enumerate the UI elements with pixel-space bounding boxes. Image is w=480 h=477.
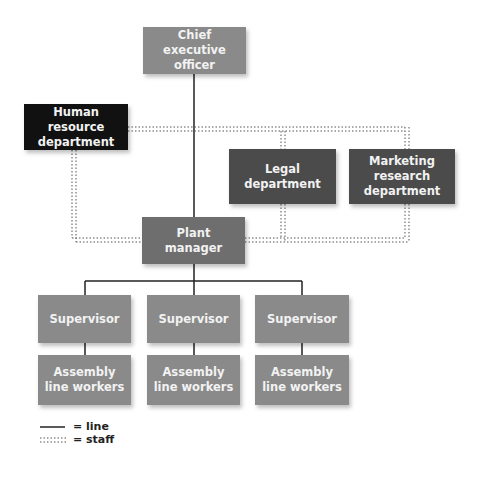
node-workers-label: Assembly line workers bbox=[151, 365, 236, 395]
node-workers-label: Assembly line workers bbox=[42, 365, 127, 395]
node-workers-1: Assembly line workers bbox=[38, 355, 131, 405]
node-workers-2: Assembly line workers bbox=[147, 355, 240, 405]
node-supervisor-2: Supervisor bbox=[147, 295, 240, 343]
node-workers-label: Assembly line workers bbox=[259, 365, 345, 395]
node-legal-label: Legal department bbox=[244, 162, 321, 192]
node-plant-manager-label: Plant manager bbox=[146, 226, 241, 256]
node-legal: Legal department bbox=[229, 149, 336, 204]
node-supervisor-3: Supervisor bbox=[255, 295, 349, 343]
node-hr: Human resource department bbox=[24, 104, 128, 150]
node-plant-manager: Plant manager bbox=[142, 217, 245, 264]
node-supervisor-label: Supervisor bbox=[267, 312, 337, 327]
node-marketing: Marketing research department bbox=[349, 149, 455, 204]
legend-staff-label: = staff bbox=[73, 433, 114, 446]
node-marketing-label: Marketing research department bbox=[359, 154, 445, 199]
node-hr-label: Human resource department bbox=[28, 105, 124, 150]
node-supervisor-label: Supervisor bbox=[158, 312, 228, 327]
legend-line-label: = line bbox=[73, 420, 109, 433]
node-workers-3: Assembly line workers bbox=[255, 355, 349, 405]
node-ceo: Chief executive officer bbox=[143, 27, 246, 74]
node-supervisor-label: Supervisor bbox=[49, 312, 119, 327]
node-ceo-label: Chief executive officer bbox=[147, 28, 242, 73]
node-supervisor-1: Supervisor bbox=[38, 295, 131, 343]
